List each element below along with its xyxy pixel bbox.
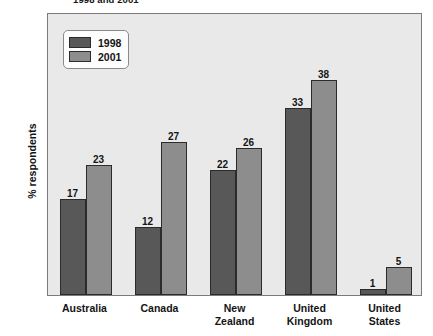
bar-1998-united-kingdom[interactable] — [285, 108, 311, 295]
bar-2001-new-zealand[interactable] — [236, 148, 262, 295]
y-axis-label: % respondents — [26, 101, 38, 221]
bar-1998-canada[interactable] — [135, 227, 161, 295]
bar-value-label: 26 — [243, 137, 254, 148]
legend-swatch-1998-icon — [69, 37, 91, 48]
chart-title: 1998 and 2001 — [73, 0, 373, 5]
x-axis-tick-label: United Kingdom — [287, 302, 333, 327]
x-axis-tick-label: United States — [368, 302, 401, 327]
bar-value-label: 33 — [292, 97, 303, 108]
legend-label-1998: 1998 — [98, 37, 121, 49]
x-axis-tick-label: Australia — [62, 302, 107, 315]
legend-item: 2001 — [69, 50, 121, 63]
x-axis-tick-label: Canada — [141, 302, 179, 315]
chart-legend: 1998 2001 — [63, 30, 129, 69]
legend-swatch-2001-icon — [69, 51, 91, 62]
bar-value-label: 17 — [67, 188, 78, 199]
chart-figure: 1998 and 2001 % respondents 051015202530… — [0, 0, 433, 336]
legend-label-2001: 2001 — [98, 51, 121, 63]
bar-2001-australia[interactable] — [86, 165, 112, 295]
x-axis-tick-label: New Zealand — [215, 302, 255, 327]
bar-2001-canada[interactable] — [161, 142, 187, 295]
bar-value-label: 5 — [396, 256, 402, 267]
bar-value-label: 27 — [168, 131, 179, 142]
bar-2001-united-kingdom[interactable] — [311, 80, 337, 295]
bar-value-label: 12 — [142, 216, 153, 227]
bar-value-label: 1 — [370, 278, 376, 289]
bar-1998-australia[interactable] — [60, 199, 86, 295]
bar-1998-united-states[interactable] — [360, 289, 386, 295]
bar-value-label: 38 — [318, 69, 329, 80]
bar-value-label: 23 — [93, 154, 104, 165]
bar-2001-united-states[interactable] — [386, 267, 412, 295]
bar-1998-new-zealand[interactable] — [210, 170, 236, 295]
legend-item: 1998 — [69, 36, 121, 49]
bar-value-label: 22 — [217, 159, 228, 170]
